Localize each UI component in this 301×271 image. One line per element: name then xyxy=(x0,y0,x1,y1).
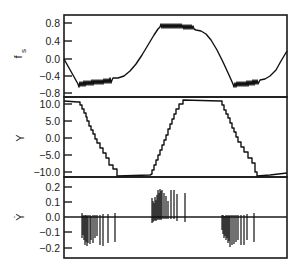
ytick-label: 0.1 xyxy=(45,196,60,208)
ytick-label: 5.0 xyxy=(45,115,60,127)
panel-2-yaxis: 10.0 5.0 0.0 −5.0 −10.0 xyxy=(33,98,72,178)
stacked-line-chart: f s Y Ẏ 0.8 0.4 0.0 −0.4 −0.8 10.0 5.0 0… xyxy=(0,0,301,271)
ylabel-fs-sub: s xyxy=(19,49,28,53)
panel-1-ylabel: f s xyxy=(12,49,28,59)
ytick-label: 0.0 xyxy=(45,132,60,144)
ytick-label: −10.0 xyxy=(33,166,60,178)
ytick-label: 0.2 xyxy=(45,181,60,193)
ytick-label: 0.0 xyxy=(45,211,60,223)
ytick-label: −0.2 xyxy=(39,242,60,254)
panel-2-y-curve xyxy=(64,100,287,176)
ytick-label: −0.1 xyxy=(39,226,60,238)
panel-3-ylabel: Ẏ xyxy=(14,213,26,221)
ytick-label: 0.4 xyxy=(45,35,60,47)
ytick-label: −0.4 xyxy=(39,70,60,82)
panel-3-ydot-spikes xyxy=(82,189,254,247)
panel-1-yaxis: 0.8 0.4 0.0 −0.4 −0.8 xyxy=(39,17,72,99)
panel-2-ylabel: Y xyxy=(14,134,26,142)
ytick-label: 0.8 xyxy=(45,17,60,29)
ytick-label: −5.0 xyxy=(39,149,60,161)
panel-1-fs-curve xyxy=(64,24,287,87)
ytick-label: 10.0 xyxy=(40,98,61,110)
ylabel-fs-main: f xyxy=(12,55,24,59)
ytick-label: 0.0 xyxy=(45,53,60,65)
